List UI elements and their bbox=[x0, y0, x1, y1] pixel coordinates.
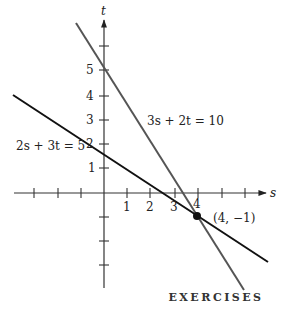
intersection-point bbox=[193, 212, 201, 220]
s-tick-label-4: 4 bbox=[193, 197, 201, 211]
t-tick-label-3: 3 bbox=[86, 113, 94, 127]
t-tick-label-4: 4 bbox=[86, 89, 94, 103]
t-tick-label-5: 5 bbox=[86, 63, 94, 77]
intersection-label: (4, −1) bbox=[213, 211, 255, 225]
s-axis-label: s bbox=[270, 186, 276, 200]
t-tick-label-2: 2 bbox=[86, 137, 94, 151]
t-tick-label-1: 1 bbox=[88, 161, 96, 175]
equation-label-3s-2t-10: 3s + 2t = 10 bbox=[147, 114, 224, 128]
equation-label-2s-3t-5: 2s + 3t = 5 bbox=[16, 139, 85, 153]
line-3s-2t-10 bbox=[76, 23, 244, 290]
s-tick-label-3: 3 bbox=[170, 200, 178, 214]
s-tick-label-1: 1 bbox=[123, 200, 131, 214]
s-tick-label-2: 2 bbox=[146, 200, 154, 214]
line-intersection-graph: t s 1 2 3 4 5 4 3 2 1 2s + 3t = 5 3s + 2… bbox=[0, 0, 288, 316]
t-axis-label: t bbox=[101, 4, 106, 18]
line-2s-3t-5 bbox=[13, 95, 268, 262]
section-heading: EXERCISES bbox=[168, 291, 263, 304]
